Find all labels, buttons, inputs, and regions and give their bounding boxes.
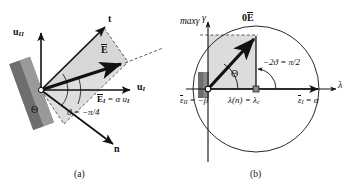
label-E-bar-a: E (101, 45, 108, 55)
label-lambda-c: λ(n) = λc (228, 96, 260, 105)
label-axis-gamma: γ (202, 13, 206, 23)
origin-dot-a (38, 87, 43, 92)
label-eps-II: εII = −β (180, 96, 208, 105)
label-n-vector: n (114, 144, 120, 154)
dashed-ray-a (125, 48, 163, 63)
label-axis-lambda: λ (338, 80, 342, 90)
caption-panel-b: (b) (250, 170, 261, 180)
panel-b (186, 22, 336, 162)
label-0E-bar: 0E (242, 13, 254, 23)
label-u-parallel: uII (13, 27, 24, 38)
label-max-gamma: maxγ (180, 17, 200, 27)
label-E-I-equation: EI = α uI (97, 95, 129, 104)
label-Theta-b: Θ (231, 69, 238, 79)
label-minus-2-vartheta: −2ϑ = π/2 (263, 58, 300, 67)
label-u-perp: uI (137, 82, 145, 93)
label-eps-I: εI = α (298, 96, 318, 105)
lambda-c-marker (253, 86, 259, 92)
caption-panel-a: (a) (74, 170, 85, 180)
label-t-vector: t (108, 14, 111, 24)
origin-dot-b (205, 86, 211, 92)
arc-minus-2-vartheta (258, 69, 276, 89)
label-Theta-a: Θ (31, 105, 38, 115)
label-vartheta-equation-a: ϑ = −π/4 (67, 108, 100, 117)
